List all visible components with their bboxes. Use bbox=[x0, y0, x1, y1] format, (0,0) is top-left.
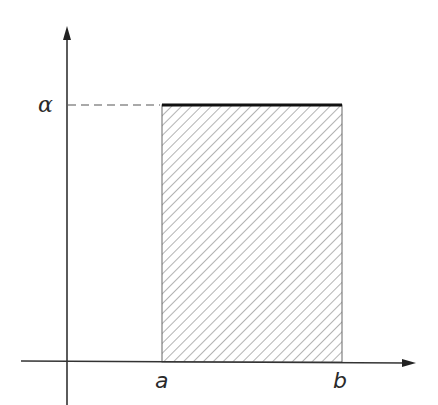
b-label: b bbox=[333, 368, 347, 393]
x-axis bbox=[21, 361, 406, 363]
hatched-rectangle bbox=[162, 105, 342, 362]
a-label: a bbox=[155, 368, 168, 393]
x-axis-arrow-icon bbox=[402, 359, 416, 367]
alpha-label: α bbox=[38, 92, 53, 117]
uniform-density-diagram: α a b bbox=[0, 0, 438, 405]
y-axis-arrow-icon bbox=[63, 26, 71, 40]
